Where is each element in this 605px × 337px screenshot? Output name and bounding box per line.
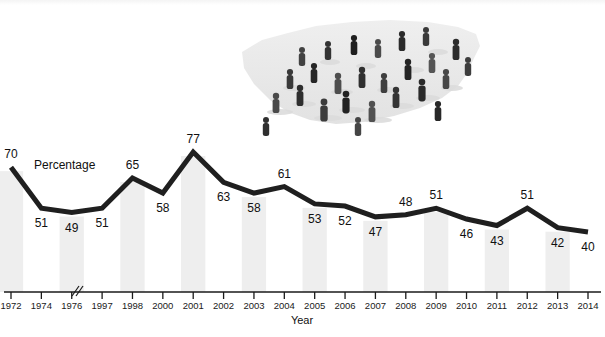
data-label: 58 bbox=[247, 201, 261, 215]
data-label: 46 bbox=[460, 227, 474, 241]
x-tick-label: 2010 bbox=[456, 300, 477, 311]
background-band bbox=[120, 182, 144, 292]
x-tick-label: 2000 bbox=[152, 300, 173, 311]
x-tick-label: 2012 bbox=[517, 300, 538, 311]
x-tick-label: 2003 bbox=[243, 300, 264, 311]
x-tick-label: 2013 bbox=[547, 300, 568, 311]
x-tick-label: 2008 bbox=[395, 300, 416, 311]
data-label: 70 bbox=[4, 147, 18, 161]
data-label: 48 bbox=[399, 195, 413, 209]
data-label: 49 bbox=[65, 221, 79, 235]
background-band bbox=[424, 212, 448, 292]
series-label-percentage: Percentage bbox=[34, 158, 96, 172]
data-label: 42 bbox=[551, 236, 565, 250]
x-tick-label: 1997 bbox=[92, 300, 113, 311]
x-tick-label: 2005 bbox=[304, 300, 325, 311]
background-band bbox=[0, 171, 23, 292]
x-tick-label: 2004 bbox=[274, 300, 295, 311]
x-tick-label: 2011 bbox=[487, 300, 507, 311]
x-tick-label: 2002 bbox=[213, 300, 234, 311]
data-label: 40 bbox=[581, 240, 595, 254]
x-tick-label: 2001 bbox=[183, 300, 204, 311]
data-label: 61 bbox=[278, 167, 292, 181]
x-axis-title: Year bbox=[291, 314, 314, 326]
data-label: 51 bbox=[521, 188, 535, 202]
data-label: 51 bbox=[95, 216, 109, 230]
data-label: 58 bbox=[156, 201, 170, 215]
data-label: 52 bbox=[338, 214, 352, 228]
data-label: 43 bbox=[490, 234, 504, 248]
background-band bbox=[181, 156, 205, 292]
data-label: 51 bbox=[429, 188, 443, 202]
data-label: 63 bbox=[217, 190, 231, 204]
data-label: 51 bbox=[35, 216, 49, 230]
x-tick-label: 2009 bbox=[426, 300, 447, 311]
data-label: 77 bbox=[187, 132, 201, 146]
chart-figure: 7051495165587763586153524748514643514240… bbox=[0, 0, 605, 337]
x-tick-label: 1976 bbox=[61, 300, 82, 311]
line-chart-svg: 7051495165587763586153524748514643514240… bbox=[0, 0, 605, 337]
axis-ticks bbox=[11, 292, 588, 299]
x-tick-label: 2007 bbox=[365, 300, 386, 311]
data-label: 53 bbox=[308, 212, 322, 226]
x-tick-label: 1998 bbox=[122, 300, 143, 311]
x-tick-label: 1972 bbox=[0, 300, 21, 311]
x-tick-label: 1974 bbox=[31, 300, 52, 311]
x-tick-label: 2006 bbox=[334, 300, 355, 311]
x-axis-tick-labels: 1972197419761997199820002001200220032004… bbox=[0, 300, 598, 311]
data-label: 47 bbox=[369, 225, 383, 239]
data-label: 65 bbox=[126, 158, 140, 172]
x-tick-label: 2014 bbox=[577, 300, 598, 311]
